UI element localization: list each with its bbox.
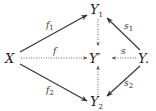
label-s: s	[121, 46, 126, 56]
node-x: X	[4, 51, 15, 66]
node-yprime: Y′	[89, 51, 101, 66]
label-s1: s1	[124, 21, 133, 33]
node-y: Y.	[138, 51, 149, 66]
node-y1: Y1	[90, 2, 103, 19]
label-s2: s2	[124, 78, 133, 90]
label-f2: f2	[45, 85, 54, 97]
label-f: f	[52, 46, 58, 56]
commutative-diagram: X Y1 Y′ Y2 Y. f1 f f2 s1 s s2	[0, 0, 156, 111]
node-y2: Y2	[90, 94, 103, 111]
label-f1: f1	[45, 20, 54, 32]
